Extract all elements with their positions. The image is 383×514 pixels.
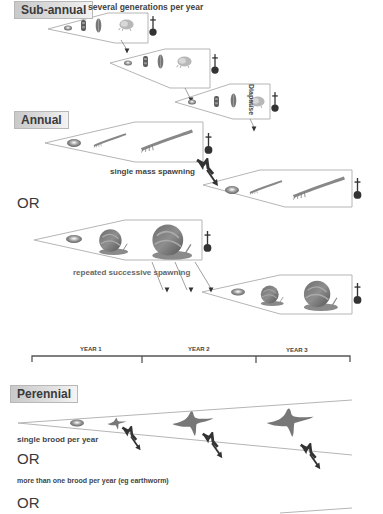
single-mass-spawning-caption: single mass spawning — [110, 167, 195, 176]
single-brood-caption: single brood per year — [17, 435, 98, 444]
year-1-label: YEAR 1 — [80, 346, 102, 352]
perennial-or-1: OR — [17, 450, 40, 467]
multiple-brood-caption: more than one brood per year (eg earthwo… — [17, 477, 169, 484]
repeated-spawning-caption: repeated successive spawning — [73, 268, 190, 277]
perennial-or-2: OR — [17, 494, 40, 511]
sub-annual-generation-2 — [124, 54, 219, 74]
timeline-axis — [32, 356, 350, 363]
sub-annual-generation-3 — [188, 92, 279, 112]
annual-label: Annual — [14, 111, 69, 129]
sub-annual-label: Sub-annual — [14, 1, 93, 19]
perennial-label: Perennial — [10, 385, 78, 403]
sub-annual-generation-1 — [64, 16, 157, 36]
sub-annual-description: several generations per year — [88, 2, 203, 12]
year-2-label: YEAR 2 — [188, 346, 210, 352]
diapause-label: Diapause — [248, 84, 255, 115]
year-3-label: YEAR 3 — [286, 347, 308, 353]
annual-or-label: OR — [17, 194, 40, 211]
